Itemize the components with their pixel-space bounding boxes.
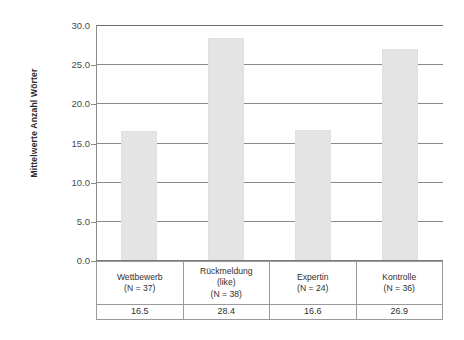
table-cell-value-wettbewerb: 16.5 [97, 305, 184, 320]
table-cell-value-expertin: 16.6 [270, 305, 357, 320]
data-table: Wettbewerb (N = 37) Rückmeldung (like) (… [96, 261, 443, 320]
table-cell-value-rueckmeldung: 28.4 [183, 305, 270, 320]
category-line: (N = 37) [97, 283, 183, 294]
y-tick-label: 10.0 [48, 176, 90, 187]
y-axis-title: Mittelwerte Anzahl Wörter [29, 43, 39, 203]
y-axis-tick-labels: 0.0 5.0 10.0 15.0 20.0 25.0 30.0 [48, 25, 90, 260]
y-tick-label: 20.0 [48, 98, 90, 109]
bar-chart-figure: Mittelwerte Anzahl Wörter 0.0 5.0 10.0 1… [0, 0, 464, 340]
bars-layer [96, 25, 443, 260]
table-cell-category-rueckmeldung: Rückmeldung (like) (N = 38) [183, 262, 270, 305]
table-cell-value-kontrolle: 26.9 [356, 305, 443, 320]
category-line: (like) [184, 277, 270, 288]
category-line: (N = 36) [357, 283, 443, 294]
bar-expertin [295, 130, 331, 260]
y-tick-label: 5.0 [48, 215, 90, 226]
category-line: (N = 38) [184, 289, 270, 300]
bar-wettbewerb [121, 131, 157, 260]
y-tick-label: 15.0 [48, 137, 90, 148]
category-line: Wettbewerb [97, 272, 183, 283]
bar-kontrolle [382, 49, 418, 260]
category-line: Expertin [270, 272, 356, 283]
y-tick-label: 25.0 [48, 59, 90, 70]
category-line: Rückmeldung [184, 266, 270, 277]
y-tick-label: 0.0 [48, 255, 90, 266]
category-line: (N = 24) [270, 283, 356, 294]
table-cell-category-kontrolle: Kontrolle (N = 36) [356, 262, 443, 305]
plot-area [96, 25, 443, 260]
table-cell-category-wettbewerb: Wettbewerb (N = 37) [97, 262, 184, 305]
table-value-row: 16.5 28.4 16.6 26.9 [97, 305, 443, 320]
table-cell-category-expertin: Expertin (N = 24) [270, 262, 357, 305]
table-header-row: Wettbewerb (N = 37) Rückmeldung (like) (… [97, 262, 443, 305]
bar-rueckmeldung [208, 38, 244, 260]
y-tick-label: 30.0 [48, 20, 90, 31]
category-line: Kontrolle [357, 272, 443, 283]
